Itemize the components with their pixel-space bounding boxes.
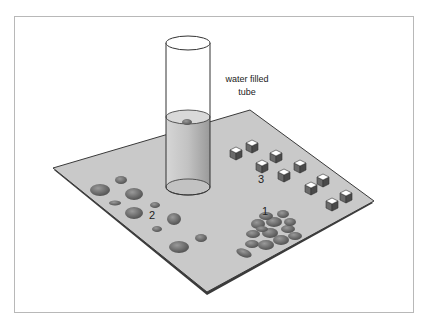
tube-label-line2: tube [238, 87, 256, 97]
group-label-1: 1 [262, 205, 268, 217]
cube [326, 198, 338, 211]
group-label-3: 3 [258, 173, 264, 185]
cube [317, 174, 329, 187]
cube [256, 160, 268, 173]
cube [340, 190, 352, 203]
cube [246, 140, 258, 153]
cube [278, 169, 290, 182]
cube [270, 150, 282, 163]
apparatus-diagram: water filled tube 1 2 3 [0, 0, 426, 326]
cube [305, 182, 317, 195]
water-filled-tube [166, 36, 210, 195]
cube [294, 160, 306, 173]
submerged-pebble [182, 119, 192, 125]
cube [230, 147, 242, 160]
tube-label-line1: water filled [224, 74, 268, 84]
group-label-2: 2 [149, 209, 155, 221]
